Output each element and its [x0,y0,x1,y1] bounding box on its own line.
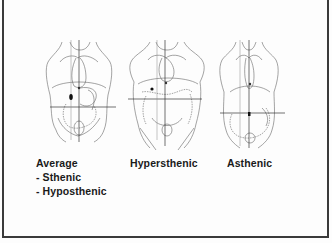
label-average: Average [36,157,78,169]
asthenic-body-diagram [0,0,332,243]
slide: Average - Sthenic - Hyposthenic Hypersth… [0,0,332,243]
label-sthenic: - Sthenic [36,171,81,183]
label-asthenic: Asthenic [227,157,272,169]
label-hyposthenic: - Hyposthenic [36,185,107,197]
label-hypersthenic: Hypersthenic [130,157,198,169]
gallbladder-marker [248,112,251,116]
